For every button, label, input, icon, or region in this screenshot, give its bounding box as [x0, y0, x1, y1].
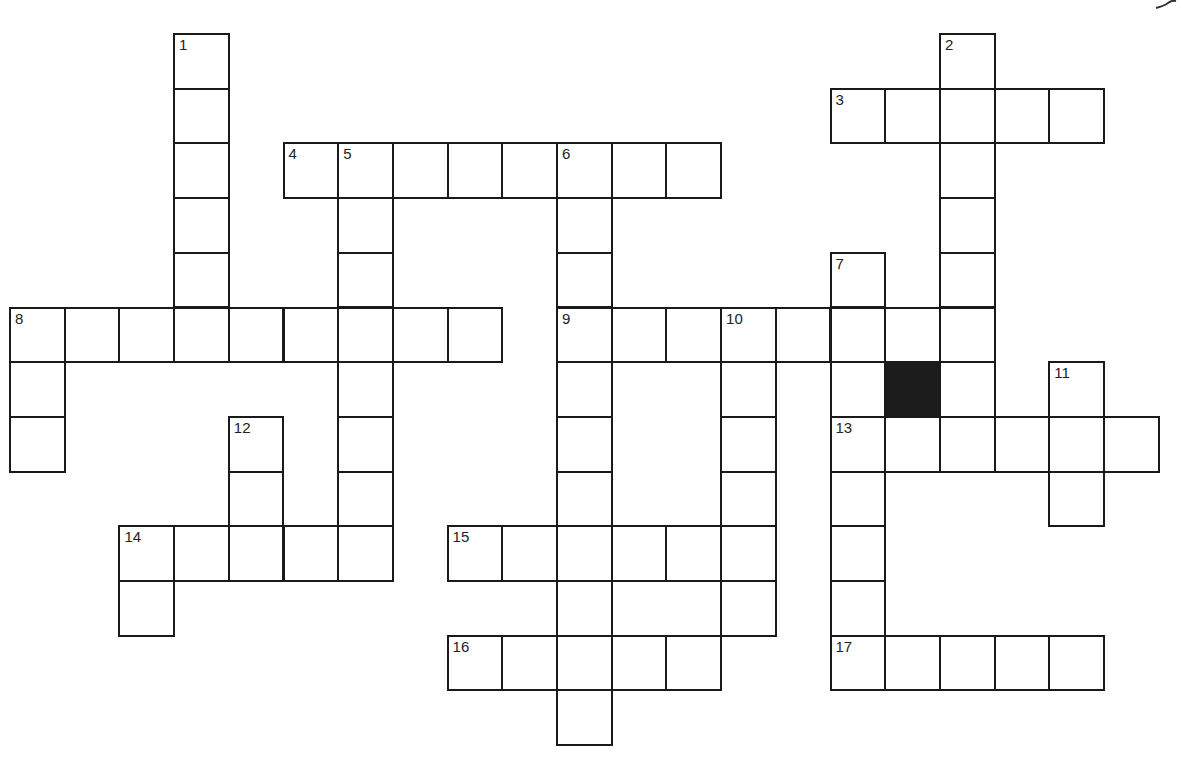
grid-cell[interactable]	[884, 88, 941, 145]
black-cell	[884, 361, 941, 418]
grid-cell[interactable]	[9, 361, 66, 418]
grid-cell[interactable]	[1048, 88, 1105, 145]
grid-cell[interactable]	[775, 307, 832, 364]
grid-cell[interactable]	[720, 471, 777, 528]
grid-cell[interactable]	[884, 416, 941, 473]
grid-cell[interactable]	[173, 525, 230, 582]
grid-cell[interactable]	[939, 142, 996, 199]
grid-cell[interactable]	[501, 635, 558, 692]
grid-cell[interactable]	[665, 307, 722, 364]
grid-cell[interactable]	[173, 252, 230, 309]
grid-cell[interactable]	[228, 525, 285, 582]
grid-cell[interactable]	[337, 361, 394, 418]
grid-cell[interactable]	[720, 416, 777, 473]
grid-cell[interactable]	[337, 416, 394, 473]
clue-number: 8	[15, 311, 23, 326]
grid-cell[interactable]: 10	[720, 307, 777, 364]
grid-cell[interactable]	[228, 471, 285, 528]
grid-cell[interactable]	[228, 307, 285, 364]
grid-cell[interactable]: 16	[447, 635, 504, 692]
grid-cell[interactable]	[611, 307, 668, 364]
grid-cell[interactable]	[337, 252, 394, 309]
grid-cell[interactable]	[939, 88, 996, 145]
grid-cell[interactable]	[611, 525, 668, 582]
grid-cell[interactable]	[1048, 635, 1105, 692]
grid-cell[interactable]: 13	[830, 416, 887, 473]
grid-cell[interactable]	[939, 197, 996, 254]
grid-cell[interactable]	[173, 197, 230, 254]
grid-cell[interactable]	[1103, 416, 1160, 473]
grid-cell[interactable]: 5	[337, 142, 394, 199]
grid-cell[interactable]	[665, 142, 722, 199]
grid-cell[interactable]	[556, 197, 613, 254]
grid-cell[interactable]	[830, 307, 887, 364]
grid-cell[interactable]	[283, 525, 340, 582]
grid-cell[interactable]: 17	[830, 635, 887, 692]
grid-cell[interactable]	[556, 252, 613, 309]
grid-cell[interactable]: 7	[830, 252, 887, 309]
grid-cell[interactable]	[337, 307, 394, 364]
grid-cell[interactable]	[556, 471, 613, 528]
grid-cell[interactable]	[939, 361, 996, 418]
grid-cell[interactable]	[1048, 471, 1105, 528]
grid-cell[interactable]	[556, 635, 613, 692]
grid-cell[interactable]	[939, 252, 996, 309]
grid-cell[interactable]	[337, 525, 394, 582]
grid-cell[interactable]	[173, 88, 230, 145]
grid-cell[interactable]	[173, 307, 230, 364]
grid-cell[interactable]	[884, 307, 941, 364]
grid-cell[interactable]: 14	[118, 525, 175, 582]
grid-cell[interactable]	[556, 361, 613, 418]
grid-cell[interactable]	[665, 525, 722, 582]
grid-cell[interactable]	[720, 525, 777, 582]
grid-cell[interactable]: 2	[939, 33, 996, 90]
grid-cell[interactable]	[337, 471, 394, 528]
grid-cell[interactable]	[611, 635, 668, 692]
grid-cell[interactable]: 8	[9, 307, 66, 364]
grid-cell[interactable]	[556, 416, 613, 473]
grid-cell[interactable]: 1	[173, 33, 230, 90]
grid-cell[interactable]	[9, 416, 66, 473]
grid-cell[interactable]	[665, 635, 722, 692]
grid-cell[interactable]	[830, 580, 887, 637]
grid-cell[interactable]: 3	[830, 88, 887, 145]
grid-cell[interactable]	[1048, 416, 1105, 473]
grid-cell[interactable]	[118, 307, 175, 364]
grid-cell[interactable]	[611, 142, 668, 199]
grid-cell[interactable]	[64, 307, 121, 364]
grid-cell[interactable]	[447, 142, 504, 199]
grid-cell[interactable]	[283, 307, 340, 364]
grid-cell[interactable]	[501, 142, 558, 199]
grid-cell[interactable]: 4	[283, 142, 340, 199]
grid-cell[interactable]	[720, 580, 777, 637]
grid-cell[interactable]	[173, 142, 230, 199]
grid-cell[interactable]	[392, 142, 449, 199]
grid-cell[interactable]	[556, 580, 613, 637]
grid-cell[interactable]	[939, 416, 996, 473]
grid-cell[interactable]	[720, 361, 777, 418]
grid-cell[interactable]	[337, 197, 394, 254]
grid-cell[interactable]	[447, 307, 504, 364]
grid-cell[interactable]: 11	[1048, 361, 1105, 418]
grid-cell[interactable]	[556, 525, 613, 582]
grid-cell[interactable]	[994, 88, 1051, 145]
grid-cell[interactable]	[501, 525, 558, 582]
grid-cell[interactable]	[939, 307, 996, 364]
clue-number: 1	[179, 37, 187, 52]
grid-cell[interactable]	[994, 635, 1051, 692]
grid-cell[interactable]	[994, 416, 1051, 473]
grid-cell[interactable]	[830, 525, 887, 582]
grid-cell[interactable]	[118, 580, 175, 637]
grid-cell[interactable]: 15	[447, 525, 504, 582]
grid-cell[interactable]	[939, 635, 996, 692]
grid-cell[interactable]	[830, 361, 887, 418]
grid-cell[interactable]	[556, 689, 613, 746]
grid-cell[interactable]: 9	[556, 307, 613, 364]
clue-number: 10	[726, 311, 743, 326]
grid-cell[interactable]	[830, 471, 887, 528]
grid-cell[interactable]	[884, 635, 941, 692]
clue-number: 3	[836, 92, 844, 107]
grid-cell[interactable]: 12	[228, 416, 285, 473]
grid-cell[interactable]	[392, 307, 449, 364]
grid-cell[interactable]: 6	[556, 142, 613, 199]
